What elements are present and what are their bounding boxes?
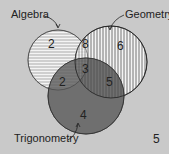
region-algebra-geometry: 8 [82, 38, 89, 50]
region-algebra-trigonometry: 2 [59, 76, 66, 88]
geometry-label: Geometry [125, 9, 169, 20]
algebra-label: Algebra [11, 9, 49, 20]
region-geometry-trigonometry: 5 [106, 76, 113, 88]
trigonometry-label: Trigonometry [14, 133, 78, 144]
region-all-three: 3 [82, 63, 89, 75]
region-algebra-only: 2 [48, 38, 55, 50]
region-geometry-only: 6 [117, 40, 124, 52]
venn-diagram [0, 0, 169, 154]
region-outside: 5 [153, 133, 160, 145]
region-trigonometry-only: 4 [80, 109, 87, 121]
